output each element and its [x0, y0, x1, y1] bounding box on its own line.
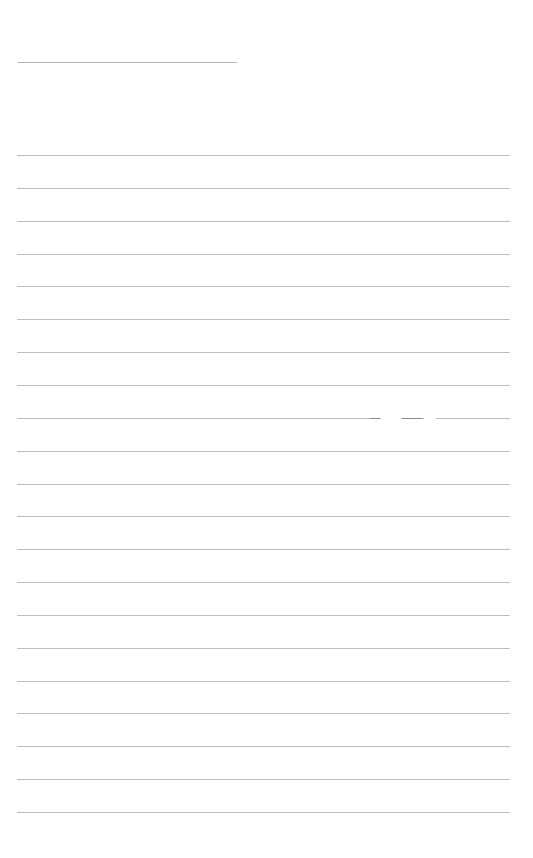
ruled-line: [17, 254, 510, 255]
ruled-line: [17, 516, 510, 517]
ruled-line: [17, 221, 510, 222]
line-mark: [402, 418, 422, 419]
ruled-line: [17, 155, 510, 156]
line-gap: [424, 417, 436, 419]
ruled-line: [17, 713, 510, 714]
ruled-line: [17, 385, 510, 386]
ruled-line: [17, 615, 510, 616]
ruled-line: [17, 188, 510, 189]
ruled-line: [17, 352, 510, 353]
ruled-line: [17, 286, 510, 287]
title-line: [18, 62, 237, 63]
ruled-line: [17, 549, 510, 550]
ruled-line: [17, 582, 510, 583]
ruled-line: [17, 746, 510, 747]
ruled-line: [17, 418, 510, 419]
ruled-line: [17, 319, 510, 320]
line-mark: [370, 418, 380, 419]
line-gap: [381, 417, 401, 419]
ruled-line: [17, 681, 510, 682]
ruled-line: [17, 812, 510, 813]
ruled-line: [17, 451, 510, 452]
ruled-line: [17, 648, 510, 649]
lined-paper-page: [0, 0, 533, 858]
ruled-line: [17, 484, 510, 485]
ruled-line: [17, 779, 510, 780]
